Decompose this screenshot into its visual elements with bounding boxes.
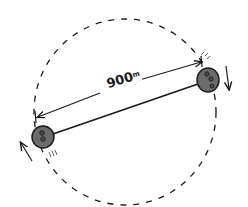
distance-dimension-arrow	[35, 56, 202, 123]
left-rotation-arrow-icon	[21, 143, 32, 161]
distance-unit: m	[131, 70, 140, 80]
right-asteroid	[197, 52, 219, 92]
orbit-path	[34, 19, 216, 205]
tether-line	[53, 84, 198, 134]
right-rotation-arrow-icon	[226, 66, 229, 89]
left-asteroid	[32, 126, 57, 157]
binary-orbit-diagram	[0, 0, 248, 207]
